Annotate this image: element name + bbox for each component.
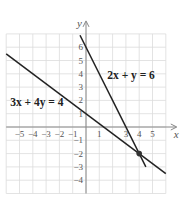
y-tick-label: −4	[73, 175, 83, 185]
x-axis-label: x	[173, 128, 179, 140]
y-tick-label: −2	[73, 149, 83, 159]
x-tick-label: −2	[55, 129, 65, 139]
y-tick-label: −1	[73, 135, 83, 145]
equation-label: 3x + 4y = 4	[10, 96, 64, 109]
x-tick-label: 4	[137, 129, 142, 139]
x-tick-label: 1	[97, 129, 102, 139]
y-tick-label: −3	[73, 162, 83, 172]
x-tick-label: −3	[41, 129, 51, 139]
y-tick-label: 3	[79, 82, 84, 92]
y-tick-label: 6	[79, 42, 84, 52]
coordinate-plane: xy−5−4−3−2−11345654321−1−2−3−42x + y = 6…	[0, 0, 184, 207]
y-tick-label: 4	[79, 69, 84, 79]
y-axis-label: y	[76, 17, 82, 29]
intersection-point	[136, 151, 142, 157]
equation-label: 2x + y = 6	[107, 69, 155, 82]
x-tick-label: −5	[15, 129, 25, 139]
x-tick-label: −4	[28, 129, 38, 139]
y-tick-label: 2	[79, 95, 84, 105]
x-tick-label: 5	[150, 129, 155, 139]
y-tick-label: 5	[79, 56, 84, 66]
